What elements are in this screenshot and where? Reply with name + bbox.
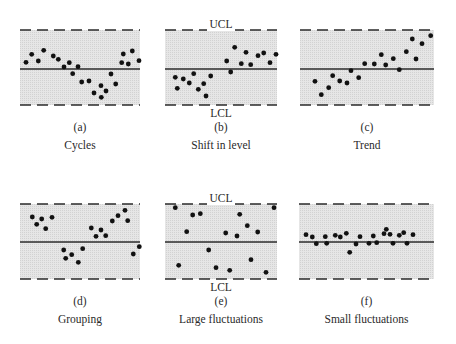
data-point — [379, 52, 384, 57]
data-point — [121, 52, 126, 57]
data-point — [256, 53, 261, 58]
data-point — [428, 33, 433, 38]
data-point — [371, 234, 376, 239]
data-point — [50, 215, 55, 220]
data-point — [272, 205, 277, 210]
data-point — [131, 252, 136, 257]
data-point — [116, 213, 121, 218]
data-point — [261, 51, 266, 56]
data-point — [338, 235, 343, 240]
panel-title: Cycles — [64, 139, 96, 152]
panel-letter: (f) — [361, 295, 373, 308]
data-point — [232, 45, 237, 50]
ucl-label: UCL — [210, 192, 233, 204]
ucl-label: UCL — [210, 18, 233, 30]
data-point — [198, 211, 203, 216]
data-point — [237, 212, 242, 217]
data-point — [411, 232, 416, 237]
data-point — [41, 48, 46, 53]
data-point — [244, 50, 249, 55]
data-point — [99, 228, 104, 233]
data-point — [304, 232, 309, 237]
data-point — [173, 205, 178, 210]
data-point — [388, 232, 393, 237]
data-point — [310, 235, 315, 240]
data-point — [356, 75, 361, 80]
data-point — [337, 79, 342, 84]
data-point — [383, 63, 388, 68]
data-point — [330, 73, 335, 78]
data-point — [248, 62, 253, 67]
data-point — [397, 233, 402, 238]
data-point — [344, 231, 349, 236]
data-point — [208, 74, 213, 79]
data-point — [79, 80, 84, 85]
data-point — [126, 62, 131, 67]
data-point — [255, 230, 260, 235]
data-point — [324, 241, 329, 246]
data-point — [34, 222, 39, 227]
data-point — [184, 229, 189, 234]
data-point — [354, 242, 359, 247]
data-point — [103, 233, 108, 238]
data-point — [382, 231, 387, 236]
data-point — [191, 71, 196, 76]
data-point — [104, 89, 109, 94]
panel-title: Small fluctuations — [324, 313, 409, 325]
data-point — [76, 64, 81, 69]
data-point — [94, 234, 99, 239]
data-point — [401, 230, 406, 235]
data-point — [358, 234, 363, 239]
data-point — [239, 61, 244, 66]
data-point — [70, 71, 75, 76]
data-point — [173, 75, 178, 80]
data-point — [30, 215, 35, 220]
data-point — [39, 217, 44, 222]
data-point — [190, 213, 195, 218]
data-point — [123, 208, 128, 213]
data-point — [313, 79, 318, 84]
data-point — [345, 81, 350, 86]
panel-title: Large fluctuations — [179, 313, 263, 326]
data-point — [214, 265, 219, 270]
panel-letter: (d) — [73, 295, 87, 308]
data-point — [374, 240, 379, 245]
data-point — [323, 234, 328, 239]
panel-letter: (e) — [215, 295, 228, 308]
data-point — [349, 68, 354, 73]
data-point — [63, 256, 68, 261]
data-point — [314, 241, 319, 246]
data-point — [245, 223, 250, 228]
data-point — [99, 83, 104, 88]
data-point — [224, 59, 229, 64]
data-point — [319, 92, 324, 97]
data-point — [51, 54, 56, 59]
data-point — [206, 248, 211, 253]
panel-c: (c)Trend — [300, 30, 434, 151]
data-point — [125, 218, 130, 223]
data-point — [109, 72, 114, 77]
data-point — [110, 219, 115, 224]
data-point — [405, 241, 410, 246]
data-point — [176, 263, 181, 268]
data-point — [397, 67, 402, 72]
control-chart-patterns-figure: (a)CyclesUCLLCL(b)Shift in level(c)Trend… — [0, 0, 456, 344]
data-point — [223, 231, 228, 236]
data-point — [326, 85, 331, 90]
data-point — [69, 252, 74, 257]
data-point — [137, 58, 142, 63]
data-point — [347, 250, 352, 255]
data-point — [420, 41, 425, 46]
data-point — [29, 52, 34, 57]
panel-letter: (c) — [361, 121, 374, 134]
data-point — [92, 91, 97, 96]
data-point — [175, 86, 180, 91]
panel-d: (d)Grouping — [20, 204, 142, 326]
data-point — [181, 77, 186, 82]
control-band — [165, 30, 277, 105]
data-point — [391, 56, 396, 61]
data-point — [24, 60, 29, 65]
data-point — [362, 61, 367, 66]
data-point — [61, 248, 66, 253]
data-point — [410, 37, 415, 42]
